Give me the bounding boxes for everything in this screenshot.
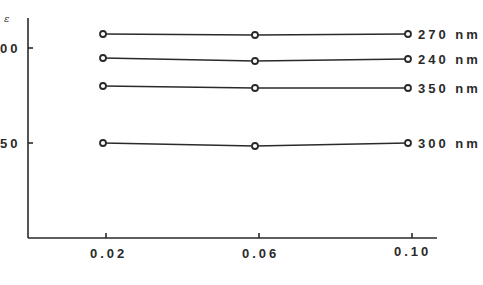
marker-circle-icon xyxy=(100,31,106,37)
series-label-350nm: 350 nm xyxy=(418,81,481,96)
y-tick-label-top: 00 xyxy=(0,41,20,56)
y-axis-symbol: ε xyxy=(4,13,9,24)
marker-circle-icon xyxy=(252,32,258,38)
marker-circle-icon xyxy=(100,55,106,61)
marker-circle-icon xyxy=(252,143,258,149)
marker-circle-icon xyxy=(405,56,411,62)
markers xyxy=(100,31,411,149)
marker-circle-icon xyxy=(252,85,258,91)
marker-circle-icon xyxy=(405,31,411,37)
x-tick-label-0.10: 0.10 xyxy=(394,244,431,259)
marker-circle-icon xyxy=(100,140,106,146)
marker-circle-icon xyxy=(405,140,411,146)
x-tick-label-0.06: 0.06 xyxy=(242,246,279,261)
series-label-270nm: 270 nm xyxy=(418,27,481,42)
series-label-240nm: 240 nm xyxy=(418,52,481,67)
marker-circle-icon xyxy=(100,83,106,89)
axes xyxy=(28,18,437,238)
marker-circle-icon xyxy=(252,58,258,64)
marker-circle-icon xyxy=(405,85,411,91)
chart: ε 00 50 0.02 0.06 0.10 270 nm 240 nm 350… xyxy=(0,0,483,285)
y-tick-label-bottom: 50 xyxy=(0,136,20,151)
series-label-300nm: 300 nm xyxy=(418,136,481,151)
x-tick-label-0.02: 0.02 xyxy=(90,246,127,261)
